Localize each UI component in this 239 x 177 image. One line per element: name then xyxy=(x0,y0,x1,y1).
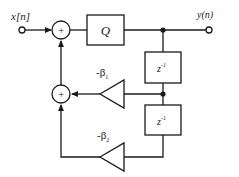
gain2-to-adder2-wire xyxy=(61,105,100,157)
delay-1-label: z-1 xyxy=(156,62,166,74)
gain-2-label: -β2 xyxy=(97,129,109,143)
junction-dot-1 xyxy=(160,27,165,32)
delay-2-label: z-1 xyxy=(156,115,166,127)
input-label: x[n] xyxy=(10,10,30,22)
delay2-to-gain2-wire xyxy=(124,135,163,157)
input-terminal xyxy=(19,27,25,33)
junction-dot-2 xyxy=(160,91,165,96)
gain-triangle-2 xyxy=(100,143,124,171)
gain-triangle-1 xyxy=(100,80,124,108)
block-diagram: + + x[n] y(n) Q z-1 z-1 -β1 -β2 xyxy=(0,0,239,177)
adder-2-symbol: + xyxy=(58,88,64,100)
gain-1-label: -β1 xyxy=(96,66,108,80)
output-terminal xyxy=(206,27,212,33)
quantizer-label: Q xyxy=(101,23,111,38)
adder-1-symbol: + xyxy=(58,24,64,36)
output-label: y(n) xyxy=(196,9,214,21)
